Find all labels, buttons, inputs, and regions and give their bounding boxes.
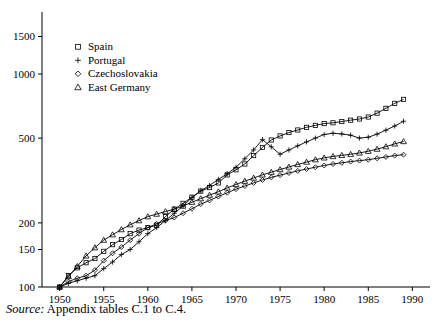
- data-point: [348, 133, 353, 138]
- data-point: [304, 139, 309, 144]
- line-chart: 1001502005001000150019501955196019651970…: [0, 0, 436, 322]
- source-note: Source: Appendix tables C.1 to C.4.: [6, 302, 186, 317]
- series-line: [60, 155, 404, 287]
- data-point: [313, 136, 318, 141]
- y-tick-label: 100: [19, 281, 36, 293]
- series-markers: [58, 97, 406, 289]
- y-tick-label: 1500: [13, 30, 36, 42]
- series-portugal: [57, 119, 406, 290]
- legend-label-czechoslovakia: Czechoslovakia: [88, 67, 158, 79]
- data-point: [366, 135, 371, 140]
- series-line: [60, 99, 404, 287]
- series-spain: [58, 97, 406, 289]
- source-label: Source:: [6, 302, 44, 316]
- data-point: [392, 123, 397, 128]
- data-point: [401, 139, 407, 144]
- chart-legend: SpainPortugalCzechoslovakiaEast Germany: [75, 40, 158, 93]
- data-point: [339, 131, 344, 136]
- legend-marker-square: [76, 44, 81, 49]
- series-line: [60, 142, 404, 287]
- legend-label-east-germany: East Germany: [88, 81, 151, 93]
- data-point: [286, 147, 291, 152]
- data-point: [357, 136, 362, 141]
- x-tick-label: 1990: [401, 293, 424, 305]
- figure-container: 1001502005001000150019501955196019651970…: [0, 0, 436, 322]
- x-tick-label: 1985: [357, 293, 380, 305]
- data-point: [401, 119, 406, 124]
- data-point: [383, 128, 388, 133]
- source-text: Appendix tables C.1 to C.4.: [44, 302, 186, 316]
- y-tick-label: 200: [19, 217, 36, 229]
- x-tick-label: 1975: [269, 293, 292, 305]
- legend-label-spain: Spain: [88, 40, 114, 52]
- y-tick-label: 500: [19, 132, 36, 144]
- data-point: [330, 131, 335, 136]
- legend-marker-diamond: [75, 71, 81, 77]
- data-point: [322, 132, 327, 137]
- y-axis-ticks: 10015020050010001500: [13, 30, 42, 293]
- legend-marker-plus: [75, 57, 81, 63]
- data-point: [295, 143, 300, 148]
- x-tick-label: 1970: [225, 293, 248, 305]
- data-point: [374, 132, 379, 137]
- x-tick-label: 1980: [313, 293, 336, 305]
- legend-marker-triangle: [75, 84, 81, 90]
- y-tick-label: 1000: [13, 68, 36, 80]
- legend-label-portugal: Portugal: [88, 54, 125, 66]
- y-tick-label: 150: [19, 243, 36, 255]
